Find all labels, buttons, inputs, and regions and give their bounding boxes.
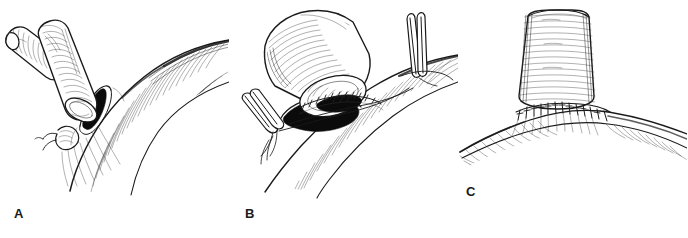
panel-a: A	[0, 0, 229, 238]
panel-c: C	[458, 0, 687, 238]
surgical-technique-figure: A	[0, 0, 688, 238]
recipient-artery-c	[460, 110, 687, 175]
left-forceps-b	[242, 89, 284, 156]
artery-hatching-c	[460, 121, 687, 175]
right-forceps-b	[401, 13, 453, 86]
bifurcated-graft-a	[6, 20, 101, 127]
panel-c-illustration	[458, 0, 687, 200]
apex-stay-suture-a	[35, 126, 120, 186]
panel-label-a: A	[14, 207, 23, 220]
panel-label-c: C	[466, 185, 475, 198]
graft-tube-c	[519, 10, 595, 109]
panel-b: B	[229, 0, 458, 238]
artery-hatching-a	[91, 41, 229, 195]
panel-a-illustration	[0, 0, 229, 200]
panel-b-illustration	[229, 0, 458, 200]
panel-label-b: B	[245, 207, 254, 220]
